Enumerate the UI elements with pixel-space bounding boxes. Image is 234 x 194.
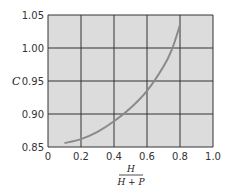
- y-tick-label: 0.85: [22, 142, 44, 153]
- y-tick-label: 1.00: [22, 43, 44, 54]
- x-tick-label: 1.0: [205, 151, 221, 162]
- x-axis-ticks: 00.20.40.60.81.0: [45, 151, 221, 162]
- y-axis-label: C: [12, 75, 21, 88]
- x-tick-label: 0.4: [106, 151, 122, 162]
- y-tick-label: 0.90: [22, 109, 44, 120]
- y-tick-label: 0.95: [22, 76, 44, 87]
- x-tick-label: 0.2: [73, 151, 89, 162]
- x-tick-label: 0.8: [172, 151, 188, 162]
- x-tick-label: 0: [45, 151, 51, 162]
- x-tick-label: 0.6: [139, 151, 155, 162]
- x-axis-label-denominator: H + P: [116, 177, 145, 187]
- x-axis-label-numerator: H: [126, 164, 135, 174]
- chart: 00.20.40.60.81.0 0.850.900.951.001.05 C …: [0, 0, 234, 194]
- y-axis-ticks: 0.850.900.951.001.05: [22, 10, 44, 153]
- y-tick-label: 1.05: [22, 10, 44, 21]
